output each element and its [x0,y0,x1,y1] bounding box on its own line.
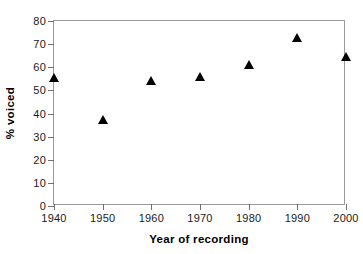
data-point [341,52,351,61]
y-tick-label: 40 [33,108,46,119]
y-axis-title-text: % voiced [4,86,16,138]
x-tick-label: 1990 [285,213,310,224]
x-tick-mark [103,204,104,210]
y-tick-mark [48,21,54,22]
x-tick-label: 1940 [41,213,66,224]
x-tick-mark [346,204,347,210]
y-tick-mark [48,67,54,68]
y-tick-label: 30 [33,131,46,142]
y-tick-label: 20 [33,154,46,165]
x-tick-mark [151,204,152,210]
y-tick-label: 50 [33,85,46,96]
y-tick-label: 0 [40,201,46,212]
x-tick-mark [249,204,250,210]
x-tick-mark [200,204,201,210]
data-point [49,73,59,82]
x-tick-label: 2000 [333,213,358,224]
x-tick-label: 1970 [187,213,212,224]
y-tick-label: 70 [33,39,46,50]
y-axis-title: % voiced [3,20,17,205]
y-tick-mark [48,90,54,91]
data-point [98,115,108,124]
y-tick-mark [48,44,54,45]
x-tick-label: 1950 [90,213,115,224]
data-point [292,33,302,42]
y-tick-label: 60 [33,62,46,73]
y-tick-mark [48,160,54,161]
y-tick-mark [48,183,54,184]
x-axis-title: Year of recording [53,233,345,245]
x-tick-label: 1960 [139,213,164,224]
y-tick-mark [48,137,54,138]
y-tick-label: 80 [33,16,46,27]
x-tick-mark [54,204,55,210]
y-tick-mark [48,114,54,115]
x-tick-label: 1980 [236,213,261,224]
data-point [244,60,254,69]
data-point [146,76,156,85]
x-tick-mark [297,204,298,210]
y-tick-label: 10 [33,177,46,188]
plot-area: 01020304050607080 1940195019601970198019… [53,20,345,205]
data-point [195,72,205,81]
scatter-chart-figure: % voiced 01020304050607080 1940195019601… [0,0,363,254]
